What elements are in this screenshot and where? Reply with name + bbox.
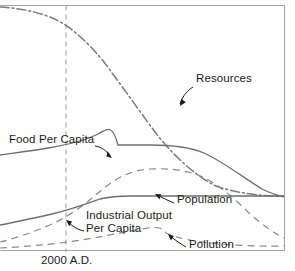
series-label-pollution: Pollution (189, 238, 234, 251)
series-label-industrial-per-capita: Per Capita (86, 222, 141, 235)
series-resources-line (0, 7, 284, 197)
series-industrial-output-line (0, 169, 284, 242)
pollution-leader-arrow (168, 234, 174, 241)
series-pollution-line (0, 228, 284, 248)
series-label-industrial-output: Industrial Output (86, 209, 172, 222)
world3-standard-run-chart: Resources Food Per Capita Population Ind… (0, 0, 295, 271)
series-label-population: Population (177, 193, 232, 206)
series-label-resources: Resources (196, 72, 252, 85)
resources-leader-arrow (180, 99, 186, 106)
x-axis-tick-label-2000: 2000 A.D. (41, 254, 92, 267)
series-label-food-per-capita: Food Per Capita (9, 133, 94, 146)
population-leader-arrow (155, 194, 161, 200)
